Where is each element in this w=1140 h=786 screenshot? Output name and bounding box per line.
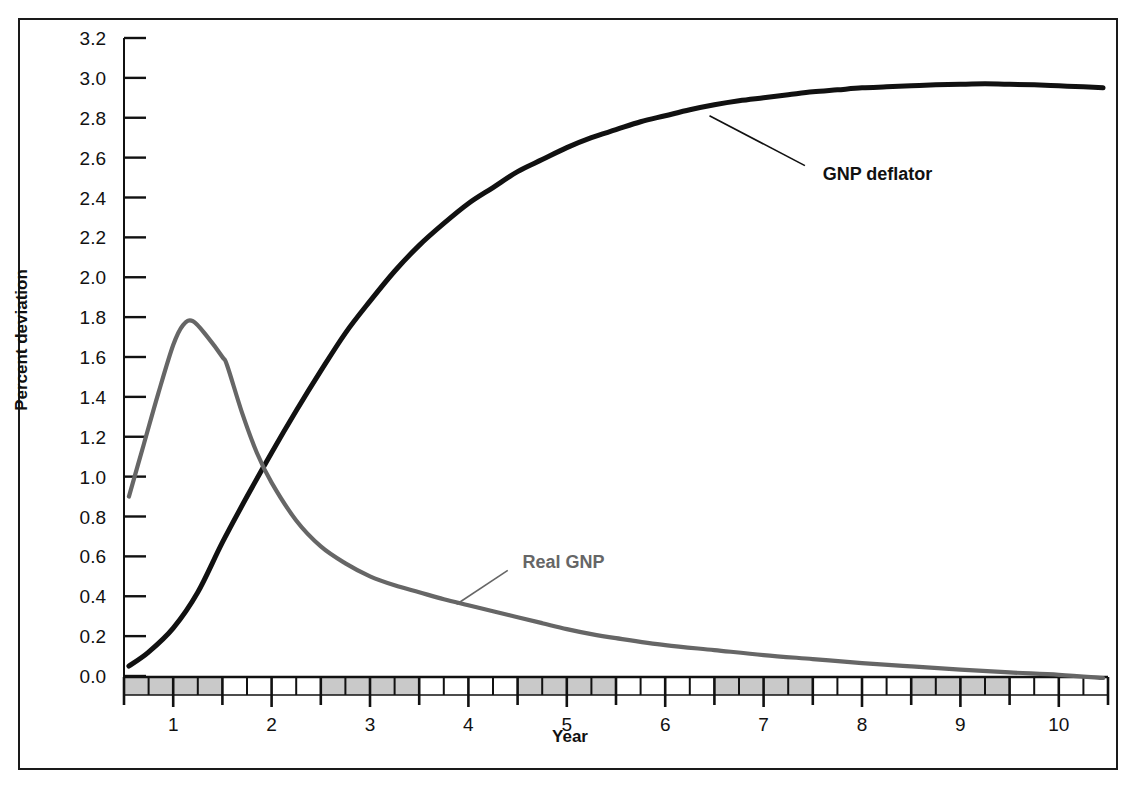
y-tick-label: 1.4 [80, 387, 107, 408]
x-axis-ticks [124, 677, 1108, 707]
x-tick-label: 8 [857, 714, 868, 735]
y-tick-label: 0.4 [80, 586, 107, 607]
x-tick-label: 3 [365, 714, 376, 735]
y-tick-label: 2.6 [80, 148, 106, 169]
series-label-real-gnp: Real GNP [523, 552, 605, 572]
x-tick-label: 10 [1048, 714, 1069, 735]
annotation-leader-line [457, 570, 508, 604]
x-tick-label: 6 [660, 714, 671, 735]
axis-lines [124, 38, 1108, 699]
line-chart-plot: 0.00.20.40.60.81.01.21.41.61.82.02.22.42… [0, 0, 1140, 786]
x-tick-label: 9 [955, 714, 966, 735]
annotation-leader-line [709, 116, 804, 166]
y-tick-label: 2.4 [80, 188, 107, 209]
y-tick-label: 0.2 [80, 626, 106, 647]
y-tick-label: 1.2 [80, 427, 106, 448]
y-tick-label: 2.2 [80, 227, 106, 248]
figure-canvas: Percent deviation Year 0.00.20.40.60.81.… [0, 0, 1140, 786]
y-tick-label: 2.8 [80, 108, 106, 129]
x-tick-label: 2 [266, 714, 277, 735]
y-axis-tick-labels: 0.00.20.40.60.81.01.21.41.61.82.02.22.42… [80, 28, 107, 687]
series-annotations: GNP deflatorReal GNP [457, 116, 933, 604]
data-series-group [129, 84, 1103, 678]
y-tick-label: 3.0 [80, 68, 106, 89]
y-tick-label: 3.2 [80, 28, 106, 49]
x-tick-label: 5 [562, 714, 573, 735]
y-tick-label: 0.8 [80, 507, 106, 528]
y-tick-label: 0.6 [80, 546, 106, 567]
series-line-gnp-deflator [129, 84, 1103, 666]
y-tick-label: 0.0 [80, 666, 106, 687]
y-tick-label: 1.8 [80, 307, 106, 328]
x-tick-label: 4 [463, 714, 474, 735]
y-tick-label: 2.0 [80, 267, 106, 288]
y-axis-ticks [124, 38, 146, 676]
series-label-gnp-deflator: GNP deflator [823, 164, 933, 184]
x-tick-label: 7 [758, 714, 769, 735]
series-line-real-gnp [129, 320, 1103, 678]
y-tick-label: 1.6 [80, 347, 106, 368]
x-tick-label: 1 [168, 714, 179, 735]
x-axis-tick-labels: 12345678910 [168, 714, 1069, 735]
y-tick-label: 1.0 [80, 467, 106, 488]
